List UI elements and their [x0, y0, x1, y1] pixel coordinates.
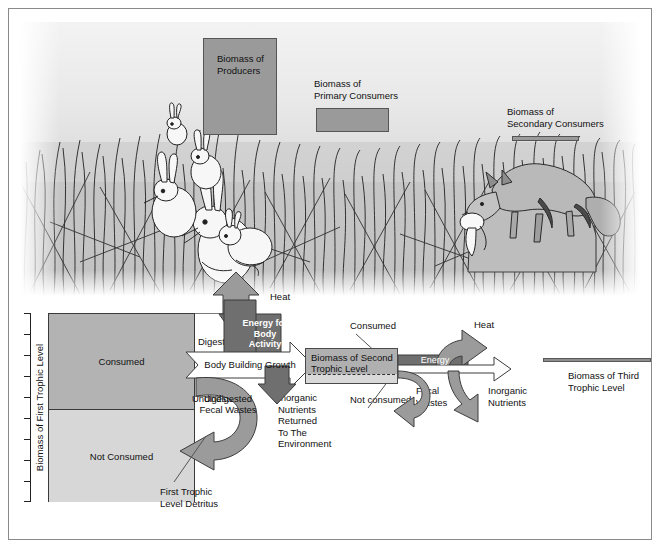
heat-upper-label: Heat — [270, 291, 290, 303]
y-axis-tick — [24, 397, 31, 398]
scene-fade-bottom — [20, 270, 640, 296]
second-not-consumed-label: Not consumed — [350, 394, 411, 406]
second-trophic-level-box: Biomass of Second Trophic Level — [305, 348, 398, 384]
connector-line-top — [195, 313, 241, 314]
y-axis-tick — [24, 439, 31, 440]
energy-right-text: Energy — [410, 355, 460, 366]
second-level-divider — [308, 374, 395, 375]
scene-fade-left — [20, 22, 60, 296]
first-trophic-detritus-label: First Trophic Level Detritus — [160, 486, 218, 509]
biomass-primary-consumers-box — [316, 108, 389, 132]
inorganic-nutrients-returned-label: Inorganic Nutrients Returned To The Envi… — [278, 392, 331, 450]
y-axis-title-text: Biomass of First Trophic Level — [35, 344, 46, 471]
y-axis-tick — [24, 501, 31, 502]
third-trophic-level-label: Biomass of Third Trophic Level — [568, 370, 639, 393]
figure-root: Biomass of Producers Biomass of Primary … — [0, 0, 664, 554]
biomass-primary-consumers-label: Biomass of Primary Consumers — [314, 78, 444, 101]
grass-illustration — [20, 22, 640, 296]
y-axis-line — [30, 313, 31, 502]
segment-consumed-label: Consumed — [99, 356, 145, 367]
biomass-secondary-consumers-label: Biomass of Secondary Consumers — [507, 106, 640, 129]
scene-fade-right — [600, 22, 640, 296]
heat-right-label: Heat — [474, 319, 494, 331]
segment-not-consumed-label: Not Consumed — [90, 451, 153, 462]
y-axis-tick — [24, 334, 31, 335]
y-axis-tick — [24, 481, 31, 482]
undigested-fecal-wastes-text: Undigested Fecal Wastes — [188, 393, 268, 415]
biomass-secondary-consumers-box — [512, 136, 579, 141]
y-axis-tick — [24, 355, 31, 356]
digested-label: Digested — [198, 336, 236, 348]
y-axis-tick — [24, 460, 31, 461]
second-consumed-label: Consumed — [350, 320, 396, 332]
y-axis-tick — [24, 418, 31, 419]
body-building-growth-text: Body Building Growth — [200, 359, 300, 370]
biomass-producers-label: Biomass of Producers — [217, 53, 287, 76]
energy-body-activity-text: Energy for Body Activity — [233, 318, 297, 350]
y-axis-tick — [24, 376, 31, 377]
fecal-wastes-right-label: Fecal Wastes — [416, 385, 447, 408]
inorganic-nutrients-right-label: Inorganic Nutrients — [488, 385, 527, 408]
energy-flow-diagram: Biomass of First Trophic Level Consumed … — [20, 300, 642, 536]
first-trophic-level-bar: Consumed Not Consumed — [48, 313, 195, 502]
segment-consumed: Consumed — [49, 314, 194, 410]
y-axis-tick — [24, 313, 31, 314]
y-axis-title: Biomass of First Trophic Level — [33, 313, 47, 502]
second-trophic-level-label: Biomass of Second Trophic Level — [311, 352, 393, 374]
third-trophic-level-bar — [543, 358, 651, 362]
meadow-scene: Biomass of Producers Biomass of Primary … — [20, 22, 640, 296]
